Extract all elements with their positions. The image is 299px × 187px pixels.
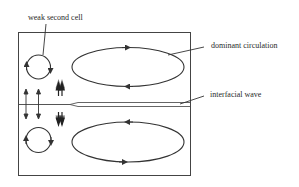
leader-dominant-circulation <box>168 47 204 55</box>
label-weak-second-cell: weak second cell <box>28 13 83 23</box>
circulation-diagram: weak second cell dominant circulation in… <box>0 0 299 187</box>
upper-dominant-cell <box>72 48 184 87</box>
double-arrows-at-interface <box>56 81 64 125</box>
interfacial-wave-line <box>19 103 190 107</box>
label-interfacial-wave: interfacial wave <box>210 90 261 100</box>
lower-dominant-cell <box>72 122 184 162</box>
label-dominant-circulation: dominant circulation <box>211 41 277 51</box>
leader-weak-second-cell <box>43 24 46 55</box>
upper-weak-cell <box>27 55 51 79</box>
leader-interfacial-wave <box>180 96 204 104</box>
lower-weak-cell <box>26 128 51 153</box>
